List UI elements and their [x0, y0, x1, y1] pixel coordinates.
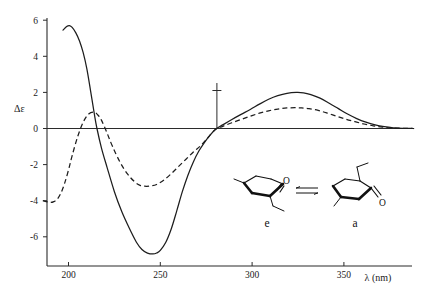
y-tick-label-2: 2 [33, 88, 38, 98]
y-tick-label-neg6: -6 [30, 232, 38, 242]
y-tick-label-neg2: -2 [30, 160, 38, 170]
y-axis-title: Δε [14, 103, 25, 114]
oxygen-atom-label-a: O [379, 198, 386, 208]
x-tick-label-300: 300 [245, 270, 260, 280]
zero-crossing-marker [212, 83, 221, 129]
conformer-label-e: e [264, 217, 269, 229]
y-axis-ticks [43, 20, 47, 237]
solid-spectrum-curve [63, 26, 414, 254]
cd-spectrum-figure: 6 4 2 0 -2 -4 -6 200 250 300 350 Δε λ (n… [0, 0, 425, 293]
y-tick-label-neg4: -4 [30, 196, 38, 206]
equatorial-conformer-structure: O e [234, 176, 290, 229]
y-tick-label-0: 0 [33, 124, 38, 134]
axial-conformer-structure: O a [333, 163, 386, 229]
x-axis-ticks [69, 262, 344, 266]
conformer-label-a: a [352, 217, 357, 229]
equilibrium-arrow-icon [296, 187, 318, 195]
x-tick-label-250: 250 [153, 270, 168, 280]
y-tick-label-4: 4 [33, 52, 38, 62]
x-tick-label-200: 200 [61, 270, 76, 280]
spectrum-plot: 6 4 2 0 -2 -4 -6 200 250 300 350 Δε λ (n… [0, 0, 425, 293]
x-axis-title: λ (nm) [365, 272, 392, 284]
x-tick-label-350: 350 [337, 270, 352, 280]
oxygen-atom-label-e: O [283, 176, 290, 186]
y-tick-label-6: 6 [33, 16, 38, 26]
